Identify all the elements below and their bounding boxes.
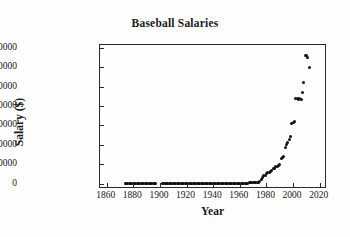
x-axis-tick-label: 1940	[203, 190, 222, 200]
data-point	[289, 135, 292, 138]
x-axis-tick-label: 2020	[309, 190, 328, 200]
data-point	[154, 182, 157, 185]
data-point	[300, 98, 303, 101]
baseball-salaries-figure: Baseball Salaries Year Salary ($) 050000…	[0, 0, 350, 237]
y-axis-tick-label: 30000000	[0, 61, 17, 71]
y-axis-tick-label: 35000000	[0, 42, 17, 52]
data-point	[306, 56, 309, 59]
x-axis-tick	[133, 183, 134, 187]
y-axis-tick	[100, 67, 104, 68]
y-axis-tick	[100, 145, 104, 146]
y-axis-tick-label: 5000000	[0, 158, 17, 168]
x-axis-tick-label: 1900	[149, 190, 168, 200]
y-axis-tick-label: 25000000	[0, 81, 17, 91]
y-axis-tick-label: 0	[12, 178, 17, 188]
data-point	[288, 138, 291, 141]
data-point	[278, 163, 281, 166]
plot-frame	[99, 44, 326, 188]
y-axis-tick	[100, 184, 104, 185]
y-axis-tick	[100, 48, 104, 49]
data-point	[301, 91, 304, 94]
x-axis-tick	[160, 183, 161, 187]
x-axis-tick	[320, 183, 321, 187]
x-axis-tick-label: 1920	[176, 190, 195, 200]
x-axis-tick	[213, 183, 214, 187]
data-point	[293, 120, 296, 123]
data-point	[308, 66, 311, 69]
y-axis-tick	[100, 87, 104, 88]
data-point	[302, 81, 305, 84]
x-axis-tick-label: 1860	[96, 190, 115, 200]
y-axis-tick	[100, 106, 104, 107]
page-title: Baseball Salaries	[0, 17, 350, 29]
data-point	[286, 141, 289, 144]
x-axis-tick	[293, 183, 294, 187]
y-axis-tick-label: 20000000	[0, 100, 17, 110]
x-axis-tick-label: 2000	[283, 190, 302, 200]
y-axis-tick-label: 10000000	[0, 139, 17, 149]
scatter-plot-area	[100, 45, 325, 187]
x-axis-tick-label: 1880	[123, 190, 142, 200]
x-axis-title: Year	[99, 205, 326, 217]
x-axis-tick	[107, 183, 108, 187]
x-axis-tick	[240, 183, 241, 187]
x-axis-tick	[266, 183, 267, 187]
y-axis-tick-label: 15000000	[0, 119, 17, 129]
x-axis-tick-label: 1960	[229, 190, 248, 200]
data-point	[284, 146, 287, 149]
y-axis-tick	[100, 125, 104, 126]
x-axis-tick	[187, 183, 188, 187]
x-axis-tick-label: 1980	[256, 190, 275, 200]
y-axis-tick	[100, 164, 104, 165]
data-point	[282, 155, 285, 158]
